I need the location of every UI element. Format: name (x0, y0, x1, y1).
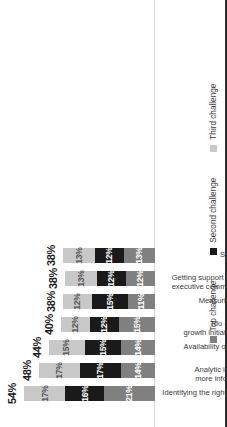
segment-value-label: 12% (73, 293, 82, 309)
legend-swatch-icon (210, 145, 217, 152)
segment-value-label: 14% (134, 362, 143, 378)
segment-value-label: 15% (106, 293, 115, 309)
bar-group: 13%12%13% (63, 248, 155, 263)
bar-segment-second-challenge[interactable]: 12% (95, 248, 124, 263)
segment-value-label: 16% (81, 385, 90, 401)
bar-group: 12%12%13% (65, 271, 155, 286)
legend-item[interactable]: Third challenge (209, 84, 218, 152)
segment-value-label: 15% (99, 339, 108, 355)
bar-segment-second-challenge[interactable]: 17% (80, 363, 121, 378)
bar-total-label: 44% (31, 331, 43, 364)
bar-stack[interactable]: 13%12%13% (63, 248, 155, 263)
bar-segment-top-challenge[interactable]: 15% (119, 317, 155, 332)
bar-stack[interactable]: 14%17%17% (39, 363, 155, 378)
legend-item[interactable]: Top challenge (209, 281, 218, 344)
legend-item[interactable]: Second challenge (209, 178, 218, 255)
segment-value-label: 17% (41, 385, 50, 401)
segment-value-label: 12% (71, 316, 80, 332)
segment-value-label: 21% (125, 385, 134, 401)
bar-segment-third-challenge[interactable]: 13% (63, 248, 94, 263)
bar-segment-third-challenge[interactable]: 13% (65, 271, 96, 286)
segment-value-label: 12% (105, 247, 114, 263)
legend-swatch-icon (210, 248, 217, 255)
bar-group: 14%17%17% (39, 363, 155, 378)
segment-value-label: 14% (134, 339, 143, 355)
bar-stack[interactable]: 21%16%17% (24, 386, 155, 401)
bar-total-label: 54% (6, 377, 18, 410)
bar-segment-third-challenge[interactable]: 12% (63, 294, 92, 309)
bar-segment-second-challenge[interactable]: 15% (92, 294, 128, 309)
bar-segment-second-challenge[interactable]: 15% (85, 340, 121, 355)
chart-page: 21%16%17%54%Identifying the right areas … (0, 0, 227, 427)
bar-stack[interactable]: 15%12%12% (61, 317, 155, 332)
segment-value-label: 12% (136, 270, 145, 286)
segment-value-label: 15% (62, 339, 71, 355)
segment-value-label: 11% (137, 294, 146, 310)
bar-segment-top-challenge[interactable]: 11% (128, 294, 155, 309)
legend-label: Second challenge (209, 178, 218, 243)
plot-area: 21%16%17%54%Identifying the right areas … (0, 0, 227, 427)
bar-stack[interactable]: 12%12%13% (65, 271, 155, 286)
bar-segment-third-challenge[interactable]: 17% (39, 363, 80, 378)
bar-group: 11%15%12% (63, 294, 155, 309)
bar-segment-top-challenge[interactable]: 12% (126, 271, 155, 286)
rotated-chart-wrapper: 21%16%17%54%Identifying the right areas … (0, 0, 227, 427)
legend-label: Top challenge (209, 281, 218, 332)
bar-group: 15%12%12% (61, 317, 155, 332)
bar-segment-third-challenge[interactable]: 17% (24, 386, 65, 401)
bar-segment-second-challenge[interactable]: 16% (65, 386, 104, 401)
bar-stack[interactable]: 11%15%12% (63, 294, 155, 309)
bar-segment-second-challenge[interactable]: 12% (90, 317, 119, 332)
bar-group: 21%16%17% (24, 386, 155, 401)
bar-segment-top-challenge[interactable]: 21% (104, 386, 155, 401)
segment-value-label: 13% (77, 270, 86, 286)
legend-label: Third challenge (209, 84, 218, 140)
bar-total-label: 38% (45, 239, 57, 272)
bar-segment-top-challenge[interactable]: 14% (121, 340, 155, 355)
bar-segment-third-challenge[interactable]: 15% (49, 340, 85, 355)
bar-segment-top-challenge[interactable]: 13% (124, 248, 155, 263)
segment-value-label: 13% (75, 247, 84, 263)
chart-canvas: 21%16%17%54%Identifying the right areas … (0, 0, 227, 427)
bar-segment-top-challenge[interactable]: 14% (121, 363, 155, 378)
bar-segment-third-challenge[interactable]: 12% (61, 317, 90, 332)
bar-segment-second-challenge[interactable]: 12% (97, 271, 126, 286)
bar-stack[interactable]: 14%15%15% (49, 340, 155, 355)
segment-value-label: 17% (55, 362, 64, 378)
segment-value-label: 12% (107, 270, 116, 286)
chart-legend: Top challengeSecond challengeThird chall… (205, 0, 221, 427)
segment-value-label: 15% (133, 316, 142, 332)
segment-value-label: 12% (100, 316, 109, 332)
legend-swatch-icon (210, 336, 217, 343)
segment-value-label: 13% (135, 247, 144, 263)
segment-value-label: 17% (96, 362, 105, 378)
bar-group: 14%15%15% (49, 340, 155, 355)
